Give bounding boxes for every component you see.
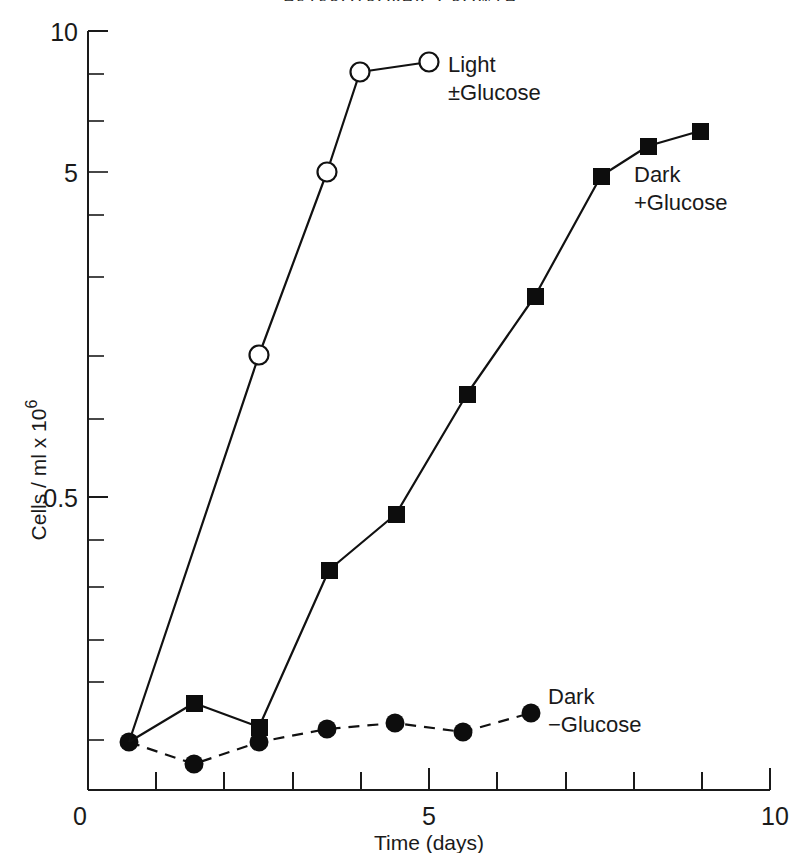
series-light-plusminus-glucose xyxy=(129,53,439,743)
data-point xyxy=(522,704,541,723)
data-point xyxy=(692,123,709,140)
series-line-light-plusminus-glucose xyxy=(129,62,429,742)
data-point xyxy=(454,723,473,742)
data-point xyxy=(186,695,203,712)
series-label-light-line1: Light xyxy=(448,52,496,77)
x-axis-label: Time (days) xyxy=(374,831,484,853)
data-point xyxy=(640,138,657,155)
data-point xyxy=(593,168,610,185)
x-tick-label-5: 5 xyxy=(422,802,436,830)
svg-text:Cells / ml x 106: Cells / ml x 106 xyxy=(23,400,50,541)
series-label-light: Light ±Glucose xyxy=(448,52,541,105)
x-tick-label-0: 0 xyxy=(73,802,87,830)
data-point xyxy=(318,163,337,182)
y-axis-label: Cells / ml x 106 xyxy=(23,400,50,541)
data-point xyxy=(351,63,370,82)
data-point xyxy=(527,288,544,305)
y-axis-ticks xyxy=(88,31,108,740)
series-label-dark-plus-line2: +Glucose xyxy=(634,190,728,215)
data-point xyxy=(250,346,269,365)
data-point xyxy=(185,755,204,774)
x-tick-label-10: 10 xyxy=(761,802,789,830)
series-label-dark-plus-line1: Dark xyxy=(634,162,681,187)
y-tick-label-10: 10 xyxy=(50,18,78,46)
data-point xyxy=(388,506,405,523)
chart-plot-area: 10 5 0.5 0 5 10 Time (days) Cells / ml x… xyxy=(0,0,800,853)
y-axis-label-text: Cells / ml x 10 xyxy=(27,409,50,541)
y-tick-label-5: 5 xyxy=(64,159,78,187)
series-label-dark-plus-glucose: Dark +Glucose xyxy=(634,162,728,215)
series-label-dark-minus-glucose: Dark −Glucose xyxy=(548,684,642,737)
y-axis-label-exponent: 6 xyxy=(23,400,40,409)
data-point xyxy=(386,714,405,733)
series-label-light-line2: ±Glucose xyxy=(448,80,541,105)
series-dark-plus-glucose xyxy=(129,123,709,742)
data-point xyxy=(420,53,439,72)
series-label-dark-minus-line1: Dark xyxy=(548,684,595,709)
series-line-dark-plus-glucose xyxy=(129,131,700,742)
data-point xyxy=(459,386,476,403)
data-point xyxy=(251,719,268,736)
figure-container: HETEROTROPHIC GROWTH 10 5 0.5 xyxy=(0,0,800,853)
series-label-dark-minus-line2: −Glucose xyxy=(548,712,642,737)
data-point xyxy=(318,720,337,739)
data-point xyxy=(321,562,338,579)
series-dark-minus-glucose xyxy=(120,704,541,774)
